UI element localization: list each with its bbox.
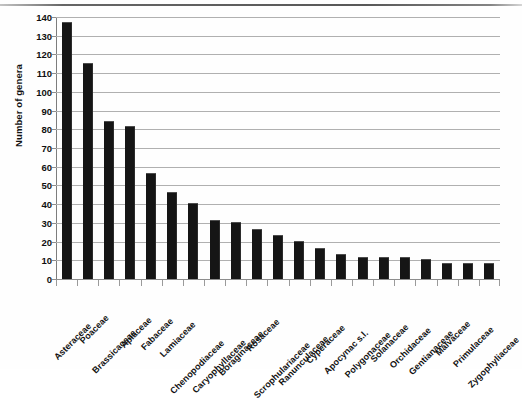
y-tick-label: 10 bbox=[6, 255, 52, 266]
bar-slot bbox=[415, 17, 436, 279]
y-axis-tick-labels: 0102030405060708090100110120130140 bbox=[0, 17, 52, 279]
bar bbox=[463, 263, 473, 279]
bar bbox=[400, 257, 410, 279]
bar-slot bbox=[394, 17, 415, 279]
y-tick-label: 0 bbox=[6, 274, 52, 285]
x-axis-ticks bbox=[56, 280, 500, 287]
y-tick-label: 110 bbox=[6, 68, 52, 79]
bar bbox=[442, 263, 452, 279]
bar bbox=[62, 22, 72, 279]
bar bbox=[484, 263, 494, 279]
x-tick-mark bbox=[141, 280, 162, 287]
x-tick-mark bbox=[415, 280, 436, 287]
x-tick-mark bbox=[394, 280, 415, 287]
bar-slot bbox=[289, 17, 310, 279]
y-tick-label: 50 bbox=[6, 180, 52, 191]
y-tick-label: 130 bbox=[6, 30, 52, 41]
x-axis-tick-end bbox=[499, 280, 500, 286]
x-tick-mark bbox=[183, 280, 204, 287]
bar bbox=[146, 173, 156, 279]
bar bbox=[104, 121, 114, 279]
bar bbox=[358, 257, 368, 279]
plot-area bbox=[56, 17, 500, 279]
x-tick-mark bbox=[162, 280, 183, 287]
x-tick-mark bbox=[331, 280, 352, 287]
bar bbox=[83, 63, 93, 279]
y-tick-label: 70 bbox=[6, 143, 52, 154]
bar-slot bbox=[162, 17, 183, 279]
x-tick-mark bbox=[310, 280, 331, 287]
bar-slot bbox=[141, 17, 162, 279]
x-tick-mark bbox=[373, 280, 394, 287]
x-tick-mark bbox=[246, 280, 267, 287]
x-axis-tick-labels: AsteraceaePoaceaeBrassicaceaeApiaceaeFab… bbox=[56, 287, 500, 369]
x-tick-mark bbox=[225, 280, 246, 287]
x-tick-mark bbox=[56, 280, 77, 287]
y-tick-label: 80 bbox=[6, 124, 52, 135]
x-tick-mark bbox=[437, 280, 458, 287]
bar-slot bbox=[56, 17, 77, 279]
scan-artifact-line bbox=[0, 4, 522, 6]
bar bbox=[188, 203, 198, 279]
bar bbox=[273, 235, 283, 279]
x-tick-mark bbox=[458, 280, 479, 287]
bar-slot bbox=[225, 17, 246, 279]
bar bbox=[210, 220, 220, 279]
x-tick-mark bbox=[119, 280, 140, 287]
bar bbox=[315, 248, 325, 279]
x-tick-mark bbox=[77, 280, 98, 287]
y-tick-label: 30 bbox=[6, 217, 52, 228]
bar-slot bbox=[204, 17, 225, 279]
bar bbox=[336, 254, 346, 279]
x-tick-mark bbox=[204, 280, 225, 287]
bar bbox=[125, 126, 135, 279]
bar bbox=[167, 192, 177, 279]
bar-slot bbox=[246, 17, 267, 279]
bar-slot bbox=[98, 17, 119, 279]
bar bbox=[252, 229, 262, 279]
x-tick-mark bbox=[98, 280, 119, 287]
bar-slot bbox=[310, 17, 331, 279]
y-tick-label: 60 bbox=[6, 161, 52, 172]
bar-slot bbox=[267, 17, 288, 279]
y-tick-label: 20 bbox=[6, 236, 52, 247]
x-tick-label-text: Scrophulariaceae bbox=[252, 340, 312, 400]
bar-slot bbox=[458, 17, 479, 279]
bar-slot bbox=[331, 17, 352, 279]
bar-slot bbox=[373, 17, 394, 279]
bar-slot bbox=[77, 17, 98, 279]
y-tick-label: 120 bbox=[6, 49, 52, 60]
bar bbox=[421, 259, 431, 279]
y-tick-label: 100 bbox=[6, 86, 52, 97]
bar bbox=[231, 222, 241, 279]
bar bbox=[379, 257, 389, 279]
bar-slot bbox=[183, 17, 204, 279]
y-tick-label: 140 bbox=[6, 12, 52, 23]
bar-slot bbox=[479, 17, 500, 279]
y-tick-label: 90 bbox=[6, 105, 52, 116]
bar bbox=[294, 241, 304, 279]
bar-slot bbox=[437, 17, 458, 279]
y-tick-label: 40 bbox=[6, 199, 52, 210]
bar-series bbox=[56, 17, 500, 279]
bar-slot bbox=[352, 17, 373, 279]
bar-slot bbox=[119, 17, 140, 279]
x-tick-mark bbox=[267, 280, 288, 287]
